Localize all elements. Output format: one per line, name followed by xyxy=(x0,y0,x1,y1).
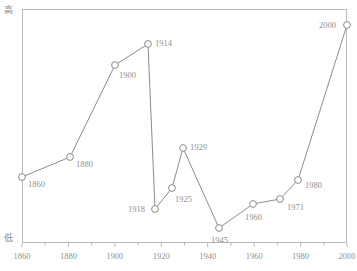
data-point-label: 1980 xyxy=(305,181,322,190)
data-point-label: 1900 xyxy=(119,71,136,80)
x-tick-label: 1880 xyxy=(60,252,77,261)
x-tick-label: 1940 xyxy=(199,252,216,261)
data-point-marker xyxy=(295,177,302,184)
data-point-marker xyxy=(180,145,187,152)
data-point-marker xyxy=(344,22,351,29)
x-tick-label: 1960 xyxy=(246,252,263,261)
data-point-marker xyxy=(169,185,176,192)
data-point-marker xyxy=(67,154,74,161)
data-point-label: 1918 xyxy=(128,205,145,214)
chart-graphics xyxy=(0,0,357,271)
data-point-label: 1929 xyxy=(190,143,207,152)
data-point-marker xyxy=(152,206,159,213)
x-tick-label: 1920 xyxy=(153,252,170,261)
data-point-marker xyxy=(112,62,119,69)
x-tick-label: 1900 xyxy=(106,252,123,261)
data-point-marker xyxy=(145,41,152,48)
data-point-label: 1914 xyxy=(155,39,172,48)
data-point-label: 1971 xyxy=(287,203,304,212)
data-point-marker xyxy=(216,225,223,232)
data-point-label: 1860 xyxy=(28,180,45,189)
data-point-label: 1925 xyxy=(175,195,192,204)
chart-canvas: 高 低 18601880190019201940196019802000 186… xyxy=(0,0,357,271)
data-point-marker xyxy=(250,201,257,208)
data-point-marker xyxy=(19,174,26,181)
data-point-label: 1960 xyxy=(245,213,262,222)
data-point-label: 1945 xyxy=(211,236,228,245)
data-point-label: 2000 xyxy=(319,21,336,30)
x-tick-label: 1860 xyxy=(14,252,31,261)
x-tick-label: 1980 xyxy=(292,252,309,261)
x-axis-ticks xyxy=(22,243,347,247)
x-tick-label: 2000 xyxy=(339,252,356,261)
data-point-marker xyxy=(277,196,284,203)
data-point-label: 1880 xyxy=(76,160,93,169)
